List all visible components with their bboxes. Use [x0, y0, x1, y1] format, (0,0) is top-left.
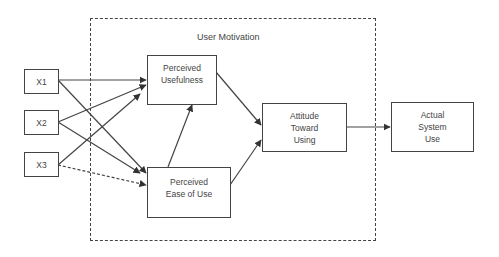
node-asu-line-3: Use [425, 133, 440, 145]
node-asu-line-1: Actual [421, 109, 445, 121]
node-pu-line-1: Perceived [163, 62, 201, 74]
node-perceived-ease-of-use: Perceived Ease of Use [147, 167, 231, 218]
node-perceived-usefulness: Perceived Usefulness [147, 55, 217, 105]
node-x3-label: X3 [36, 159, 46, 171]
node-atu-line-2: Toward [291, 122, 318, 134]
node-asu-line-2: System [418, 121, 446, 133]
node-x1-label: X1 [36, 76, 46, 88]
node-actual-system-use: Actual System Use [391, 102, 474, 152]
node-x1: X1 [24, 69, 59, 94]
node-pu-line-2: Usefulness [161, 74, 203, 86]
node-atu-line-1: Attitude [290, 110, 319, 122]
node-x2-label: X2 [36, 117, 46, 129]
node-peou-line-2: Ease of Use [166, 188, 212, 200]
node-x3: X3 [24, 152, 59, 177]
node-peou-line-1: Perceived [170, 176, 208, 188]
node-attitude-toward-using: Attitude Toward Using [262, 103, 347, 152]
node-x2: X2 [24, 110, 59, 135]
node-atu-line-3: Using [294, 134, 316, 146]
user-motivation-label: User Motivation [197, 32, 260, 42]
